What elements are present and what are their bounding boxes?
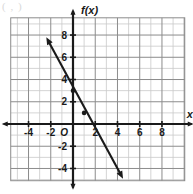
y-tick-label: -2 <box>58 141 67 152</box>
y-axis-label: f(x) <box>81 4 98 16</box>
x-tick-label: -4 <box>24 127 33 138</box>
corner-artifact-text: ( , ) <box>2 0 23 12</box>
graph-canvas: -4-224688642-2-4O xf(x) <box>0 0 193 194</box>
origin-label: O <box>60 127 68 138</box>
x-tick-label: 8 <box>159 127 165 138</box>
plotted-point <box>82 111 87 116</box>
x-tick-label: 4 <box>115 127 121 138</box>
x-axis-label: x <box>186 108 193 120</box>
x-tick-label: 6 <box>137 127 143 138</box>
plotted-point <box>71 88 76 93</box>
coordinate-plane-figure: ( , ) -4-224688642-2-4O xf(x) <box>0 0 193 194</box>
x-tick-label: -2 <box>46 127 55 138</box>
y-tick-label: 8 <box>61 30 67 41</box>
y-tick-label: -4 <box>58 163 67 174</box>
y-tick-label: 2 <box>61 96 67 107</box>
y-tick-label: 6 <box>61 52 67 63</box>
